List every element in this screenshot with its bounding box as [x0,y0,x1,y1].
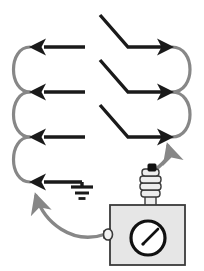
pass-4-arrowhead [29,174,46,191]
pass-2-arrowhead [29,84,46,101]
right-return-arcs [172,47,190,137]
diagram-svg [0,0,204,271]
ribbed-insulator [140,164,161,208]
pass-1-arrowhead [29,39,46,56]
upper-lead-wire [155,146,169,170]
insulator-ring-4 [141,190,160,197]
leftward-arrowheads [29,39,46,191]
left-arc-1 [14,47,31,92]
leftward-scan-passes [44,47,85,182]
left-return-arcs [14,47,31,182]
insulator-ring-2 [140,176,161,183]
gauge-hub [141,242,144,245]
right-arc-2 [172,92,190,137]
rightward-zigzag-passes [100,15,170,137]
lower-lead-wire [36,196,106,237]
hv-terminal [148,164,156,171]
right-arc-1 [172,47,190,92]
ground-terminal-post [104,229,113,240]
insulator-ring-3 [140,183,161,190]
left-arc-2 [14,92,31,137]
earth-ground-symbol [71,182,93,199]
left-arc-3 [14,137,31,182]
diagram-canvas: Serpentine scan path with grounded surfa… [0,0,204,271]
measuring-instrument[interactable] [104,205,186,265]
pass-3-arrowhead [29,129,46,146]
